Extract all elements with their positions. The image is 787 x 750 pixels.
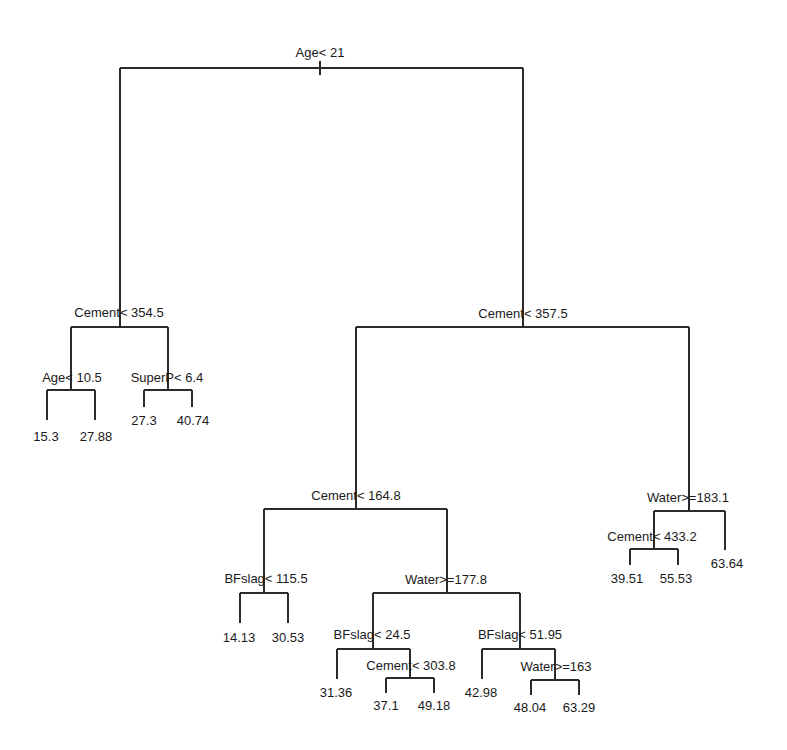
split-label-cement-303: Cement< 303.8 (366, 659, 455, 672)
leaf-value: 48.04 (514, 701, 547, 714)
split-label-water-183: Water>=183.1 (647, 491, 729, 504)
leaf-value: 55.53 (660, 572, 693, 585)
split-label-cement-354: Cement< 354.5 (74, 306, 163, 319)
leaf-value: 42.98 (465, 686, 498, 699)
split-label-cement-164: Cement< 164.8 (311, 489, 400, 502)
split-label-cement-357: Cement< 357.5 (478, 307, 567, 320)
leaf-value: 40.74 (177, 414, 210, 427)
leaf-value: 14.13 (223, 631, 256, 644)
split-label-water-177: Water>=177.8 (405, 573, 487, 586)
split-label-water-163: Water>=163 (520, 660, 591, 673)
regression-tree-diagram: Age< 21 Cement< 354.5 Cement< 357.5 Age<… (0, 0, 787, 750)
leaf-value: 39.51 (611, 572, 644, 585)
leaf-value: 37.1 (373, 699, 398, 712)
leaf-value: 63.64 (711, 557, 744, 570)
split-label-bfslag-115: BFslag< 115.5 (224, 572, 307, 585)
split-label-age-10: Age< 10.5 (42, 371, 102, 384)
leaf-value: 31.36 (320, 686, 353, 699)
split-label-bfslag-24: BFslag< 24.5 (334, 628, 411, 641)
leaf-value: 27.3 (131, 414, 156, 427)
split-label-root: Age< 21 (296, 46, 345, 59)
split-label-superp: SuperP< 6.4 (131, 371, 204, 384)
leaf-value: 49.18 (418, 699, 451, 712)
leaf-value: 30.53 (272, 631, 305, 644)
split-label-bfslag-51: BFslag< 51.95 (478, 628, 562, 641)
leaf-value: 27.88 (80, 430, 113, 443)
leaf-value: 15.3 (33, 430, 58, 443)
split-label-cement-433: Cement< 433.2 (607, 530, 696, 543)
leaf-value: 63.29 (563, 701, 596, 714)
